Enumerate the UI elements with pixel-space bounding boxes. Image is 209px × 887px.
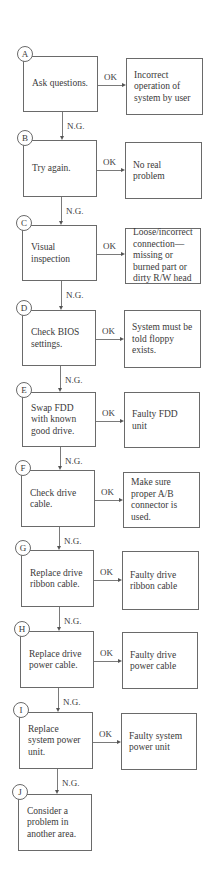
step-action-text: Replace drive power cable. <box>21 648 93 671</box>
result-text: Faulty drive ribbon cable <box>123 569 198 592</box>
ok-label: OK <box>104 72 117 82</box>
ng-label: N.G. <box>62 778 80 788</box>
result-box-g: Faulty drive ribbon cable <box>122 551 199 610</box>
result-box-i: Faulty system power unit <box>121 713 197 770</box>
ok-connector-line <box>97 170 121 171</box>
step-box-a: Ask questions. <box>23 56 98 112</box>
result-text: Faulty system power unit <box>122 730 196 753</box>
step-action-text: Replace drive ribbon cable. <box>22 567 93 590</box>
step-label-circle-f: F <box>15 460 31 476</box>
ng-connector-line <box>61 281 62 306</box>
arrow-right-icon <box>121 252 125 256</box>
ok-connector-line <box>96 339 120 340</box>
step-label-circle-g: G <box>15 540 31 556</box>
step-box-h: Replace drive power cable. <box>20 631 94 688</box>
step-action-text: Replace system power unit. <box>20 723 92 758</box>
result-box-d: System must be told floppy exists. <box>124 310 201 368</box>
ok-connector-line <box>97 254 121 255</box>
step-box-b: Try again. <box>23 140 97 197</box>
step-box-d: Check BIOS settings. <box>22 310 96 366</box>
ng-label: N.G. <box>66 290 84 300</box>
ng-connector-line <box>60 366 61 388</box>
result-box-b: No real problem <box>125 142 202 199</box>
ng-label: N.G. <box>65 375 83 385</box>
step-label-circle-a: A <box>17 46 33 62</box>
step-label-circle-d: D <box>16 300 32 316</box>
ok-label: OK <box>101 487 114 497</box>
step-box-f: Check drive cable. <box>21 470 95 527</box>
step-label-circle-i: I <box>13 702 29 718</box>
arrow-right-icon <box>122 83 126 87</box>
step-label-circle-e: E <box>16 382 32 398</box>
result-box-f: Make sure proper A/B connector is used. <box>123 472 200 528</box>
ng-label: N.G. <box>64 616 82 626</box>
ok-connector-line <box>98 85 122 86</box>
ok-label: OK <box>100 648 113 658</box>
result-text: Loose/incorrect connection—missing or bu… <box>126 227 200 285</box>
arrow-right-icon <box>118 659 122 663</box>
step-box-e: Swap FDD with known good drive. <box>22 392 96 447</box>
ng-label: N.G. <box>63 697 81 707</box>
result-box-a: Incorrect operation of system by user <box>126 58 203 115</box>
result-text: Faulty drive power cable <box>123 649 197 672</box>
step-box-j: Consider a problem in another area. <box>18 794 92 851</box>
result-text: Faulty FDD unit <box>125 409 199 432</box>
ok-connector-line <box>94 580 118 581</box>
ok-label: OK <box>103 241 116 251</box>
ng-label: N.G. <box>64 536 82 546</box>
ng-connector-line <box>59 607 60 627</box>
arrow-right-icon <box>120 337 124 341</box>
ok-connector-line <box>95 500 119 501</box>
step-label-circle-b: B <box>17 130 33 146</box>
step-action-text: Visual inspection <box>23 242 96 265</box>
result-box-e: Faulty FDD unit <box>124 392 200 448</box>
ng-connector-line <box>59 527 60 546</box>
ng-connector-line <box>60 447 61 466</box>
step-action-text: Swap FDD with known good drive. <box>23 402 95 437</box>
ng-label: N.G. <box>65 456 83 466</box>
result-text: System must be told floppy exists. <box>125 322 200 357</box>
result-text: Incorrect operation of system by user <box>127 69 202 104</box>
step-action-text: Try again. <box>24 163 96 175</box>
ng-connector-line <box>58 688 59 708</box>
arrow-right-icon <box>119 498 123 502</box>
ng-label: N.G. <box>66 206 84 216</box>
step-action-text: Check BIOS settings. <box>23 327 95 350</box>
ng-connector-line <box>57 769 58 790</box>
step-box-c: Visual inspection <box>22 225 97 281</box>
ng-connector-line <box>62 112 63 136</box>
result-text: Make sure proper A/B connector is used. <box>124 477 199 523</box>
ok-label: OK <box>103 157 116 167</box>
step-action-text: Consider a problem in another area. <box>19 805 91 840</box>
arrow-right-icon <box>118 578 122 582</box>
ok-label: OK <box>102 326 115 336</box>
arrow-right-icon <box>121 168 125 172</box>
ok-label: OK <box>99 729 112 739</box>
ng-connector-line <box>61 197 62 221</box>
step-action-text: Ask questions. <box>24 78 97 90</box>
ng-label: N.G. <box>67 121 85 131</box>
ok-connector-line <box>94 661 118 662</box>
step-label-circle-c: C <box>16 215 32 231</box>
ok-connector-line <box>93 742 117 743</box>
ok-connector-line <box>96 421 120 422</box>
step-box-i: Replace system power unit. <box>19 712 93 769</box>
result-box-h: Faulty drive power cable <box>122 632 198 689</box>
ok-label: OK <box>102 408 115 418</box>
result-box-c: Loose/incorrect connection—missing or bu… <box>125 228 201 284</box>
step-box-g: Replace drive ribbon cable. <box>21 550 94 607</box>
arrow-right-icon <box>120 419 124 423</box>
step-label-circle-h: H <box>14 621 30 637</box>
result-text: No real problem <box>126 159 201 182</box>
step-label-circle-j: J <box>12 784 28 800</box>
arrow-right-icon <box>117 740 121 744</box>
step-action-text: Check drive cable. <box>22 487 94 510</box>
ok-label: OK <box>100 567 113 577</box>
